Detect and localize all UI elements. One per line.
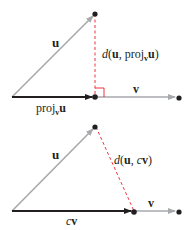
u-label: u (52, 147, 59, 162)
cv-point (131, 209, 137, 215)
u-tip-point (92, 124, 97, 129)
projection-distance-diagram: u v projvu d(u, projvu) u v cv d(u, cv) (0, 0, 194, 230)
vector-u-arrow (12, 16, 93, 97)
vector-u-arrow (12, 129, 93, 211)
projection-label: projvu (36, 101, 66, 117)
top-diagram: u v projvu d(u, projvu) (12, 11, 182, 117)
projection-point (92, 94, 98, 100)
v-tip-point (176, 209, 181, 214)
u-label: u (52, 35, 59, 50)
bottom-diagram: u v cv d(u, cv) (12, 124, 182, 228)
v-tip-point (176, 95, 181, 100)
distance-dashed-line (96, 127, 134, 211)
u-tip-point (92, 11, 97, 16)
cv-label: cv (66, 214, 77, 228)
v-label: v (133, 82, 139, 96)
v-label: v (148, 196, 154, 210)
distance-label: d(u, projvu) (102, 47, 159, 63)
distance-label: d(u, cv) (114, 153, 152, 167)
